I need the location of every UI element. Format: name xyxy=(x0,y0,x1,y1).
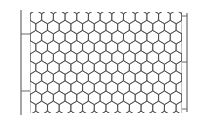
wire-mesh-diagram xyxy=(0,0,197,124)
